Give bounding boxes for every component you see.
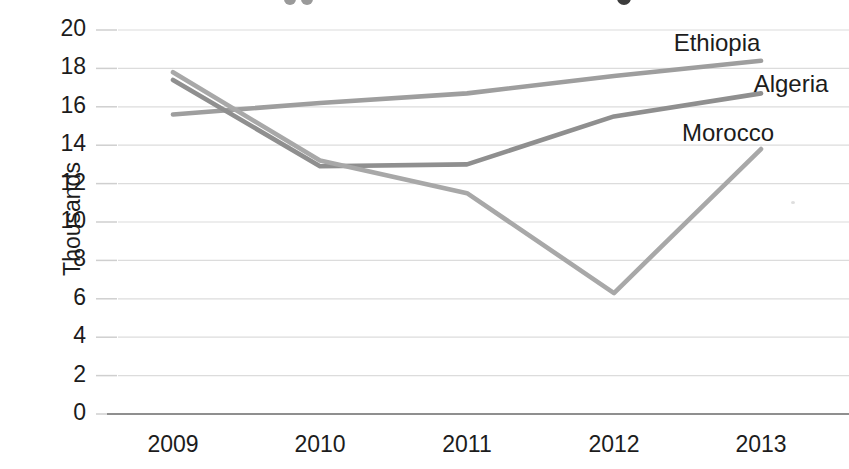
line-chart: Thousands 024681012141618202009201020112…: [0, 0, 849, 469]
series-label-ethiopia: Ethiopia: [674, 30, 761, 56]
y-tick-label-20: 20: [28, 15, 86, 41]
y-tick-label-6: 6: [28, 284, 86, 310]
y-tick-label-4: 4: [28, 322, 86, 348]
plot-area: [0, 0, 849, 469]
y-tick-label-18: 18: [28, 53, 86, 79]
y-tick-label-10: 10: [28, 207, 86, 233]
y-tick-label-14: 14: [28, 130, 86, 156]
x-tick-label-2009: 2009: [127, 431, 219, 457]
x-tick-label-2013: 2013: [715, 431, 807, 457]
y-tick-label-16: 16: [28, 92, 86, 118]
x-tick-label-2010: 2010: [274, 431, 366, 457]
x-tick-label-2011: 2011: [421, 431, 513, 457]
y-tick-label-12: 12: [28, 169, 86, 195]
y-tick-label-0: 0: [28, 399, 86, 425]
y-tick-label-8: 8: [28, 245, 86, 271]
series-label-algeria: Algeria: [754, 71, 829, 97]
y-tick-label-2: 2: [28, 361, 86, 387]
scan-speck: [791, 201, 795, 204]
x-tick-label-2012: 2012: [568, 431, 660, 457]
series-label-morocco: Morocco: [682, 120, 774, 146]
